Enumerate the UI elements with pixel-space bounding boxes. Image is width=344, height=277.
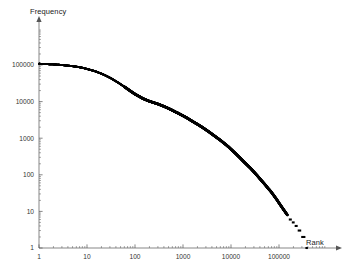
svg-text:1: 1: [37, 253, 41, 260]
svg-text:1: 1: [30, 244, 34, 251]
zipf-rank-frequency-plot: Frequency Rank 1101001000100001000001101…: [0, 0, 344, 277]
axes-layer: [36, 16, 342, 251]
data-series-points: [38, 63, 308, 248]
svg-text:1000: 1000: [19, 135, 34, 142]
plot-canvas: 1101001000100001000001101001000100001000…: [0, 0, 344, 277]
tick-labels-layer: 1101001000100001000001101001000100001000…: [12, 61, 290, 260]
svg-text:100: 100: [129, 253, 140, 260]
svg-text:1000: 1000: [176, 253, 191, 260]
ticks-layer: [39, 30, 325, 248]
svg-text:100000: 100000: [268, 253, 290, 260]
svg-text:10000: 10000: [16, 98, 35, 105]
svg-text:100: 100: [23, 171, 34, 178]
svg-text:10: 10: [27, 208, 35, 215]
svg-text:10000: 10000: [222, 253, 241, 260]
svg-text:10: 10: [83, 253, 91, 260]
svg-text:100000: 100000: [12, 61, 34, 68]
